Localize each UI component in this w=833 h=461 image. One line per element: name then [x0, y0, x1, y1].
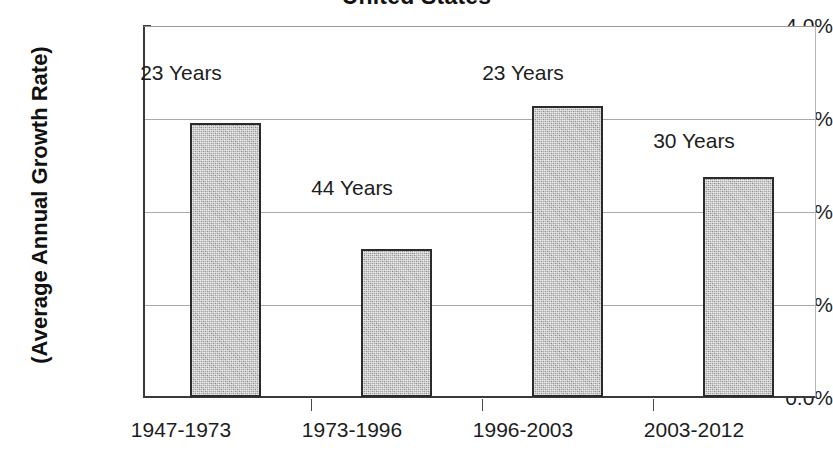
bar-1973-1996[interactable]	[361, 249, 432, 397]
bar-2003-2012[interactable]	[703, 177, 774, 397]
bar-data-label-1947-1973: 23 Years	[118, 61, 244, 85]
x-tick-label-2003-2012: 2003-2012	[626, 418, 762, 442]
x-tick-mark-2	[482, 399, 483, 411]
bar-1996-2003[interactable]	[532, 106, 603, 397]
gridline-3	[145, 119, 815, 120]
bar-data-label-1996-2003: 23 Years	[460, 61, 586, 85]
x-tick-label-1947-1973: 1947-1973	[113, 418, 249, 442]
x-tick-mark-3	[653, 399, 654, 411]
chart-title: United States	[0, 0, 833, 10]
y-axis-title: (Average Annual Growth Rate)	[27, 0, 53, 415]
x-tick-label-1996-2003: 1996-2003	[455, 418, 591, 442]
x-tick-label-1973-1996: 1973-1996	[284, 418, 420, 442]
bar-data-label-2003-2012: 30 Years	[631, 129, 757, 153]
x-tick-mark-1	[311, 399, 312, 411]
bar-chart: United States (Average Annual Growth Rat…	[0, 0, 833, 461]
bar-data-label-1973-1996: 44 Years	[289, 176, 415, 200]
bar-1947-1973[interactable]	[190, 123, 261, 397]
